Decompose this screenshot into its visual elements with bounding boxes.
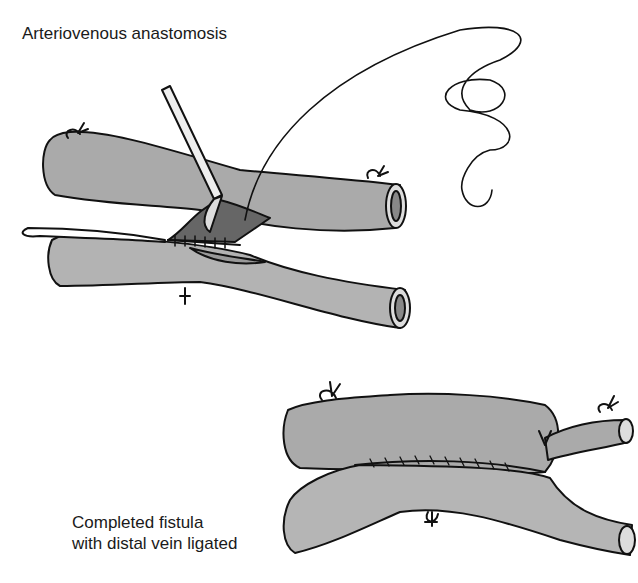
anastomosis-illustration [0,0,638,583]
lower-vessel-top-figure [48,236,410,328]
completed-fistula-figure [284,382,635,555]
